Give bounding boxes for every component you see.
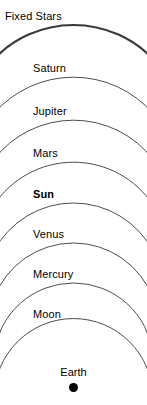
- sphere-label-saturn: Saturn: [33, 62, 66, 74]
- earth-label: Earth: [0, 366, 147, 378]
- sphere-label-fixed-stars: Fixed Stars: [5, 10, 62, 22]
- sphere-arc: [0, 77, 147, 113]
- sphere-arc: [0, 243, 147, 298]
- sphere-arc: [0, 162, 147, 205]
- sphere-arc: [0, 120, 147, 159]
- sphere-arc: [0, 203, 147, 251]
- sphere-arc: [0, 25, 147, 59]
- sphere-label-moon: Moon: [33, 308, 61, 320]
- earth-group: Earth: [0, 366, 147, 392]
- sphere-label-mars: Mars: [33, 147, 58, 159]
- sphere-label-sun: Sun: [33, 188, 54, 200]
- sphere-label-mercury: Mercury: [33, 268, 73, 280]
- earth-dot-icon: [69, 383, 78, 392]
- sphere-label-venus: Venus: [33, 228, 64, 240]
- celestial-sphere-arcs: [0, 0, 147, 405]
- sphere-label-jupiter: Jupiter: [33, 105, 67, 117]
- geocentric-spheres-diagram: Fixed StarsSaturnJupiterMarsSunVenusMerc…: [0, 0, 147, 405]
